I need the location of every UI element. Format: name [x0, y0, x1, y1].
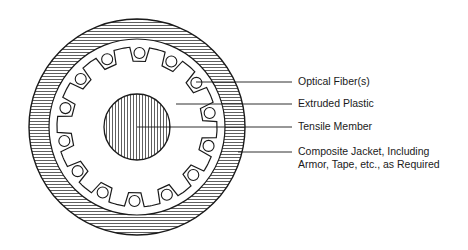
optical-fiber: [102, 54, 113, 65]
optical-fiber: [188, 170, 199, 181]
optical-fiber: [129, 195, 140, 206]
label-composite-jacket-line2: Armor, Tape, etc., as Required: [298, 158, 440, 171]
optical-fiber: [75, 73, 86, 84]
label-extruded-plastic: Extruded Plastic: [298, 97, 374, 110]
optical-fiber: [166, 56, 177, 67]
optical-fiber: [191, 77, 202, 88]
optical-fiber: [161, 189, 172, 200]
cable-cross-section-diagram: [0, 0, 468, 250]
optical-fiber: [134, 48, 145, 59]
optical-fiber: [72, 166, 83, 177]
label-composite-jacket-line1: Composite Jacket, Including: [298, 145, 440, 158]
label-optical-fiber: Optical Fiber(s): [298, 75, 370, 88]
optical-fiber: [97, 187, 108, 198]
optical-fiber: [203, 140, 214, 151]
optical-fiber: [59, 136, 70, 147]
optical-fiber: [204, 107, 215, 118]
label-tensile-member: Tensile Member: [298, 120, 372, 133]
label-composite-jacket: Composite Jacket, Including Armor, Tape,…: [298, 145, 440, 171]
optical-fiber: [60, 103, 71, 114]
